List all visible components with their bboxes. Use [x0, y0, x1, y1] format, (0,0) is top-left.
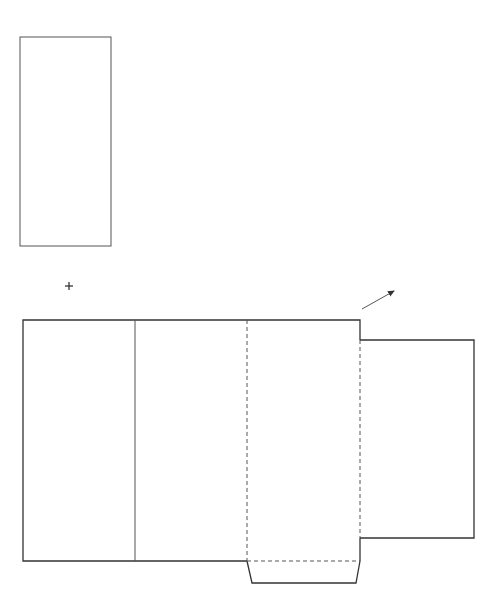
- plus-icon: [65, 282, 73, 290]
- bottom-flap: [247, 561, 360, 583]
- net: [23, 320, 474, 583]
- main-panel-outline: [23, 320, 360, 561]
- diagram-canvas: [0, 0, 496, 601]
- arrow-icon: [362, 291, 394, 309]
- insert-panel: [20, 37, 111, 246]
- right-flap: [360, 340, 474, 538]
